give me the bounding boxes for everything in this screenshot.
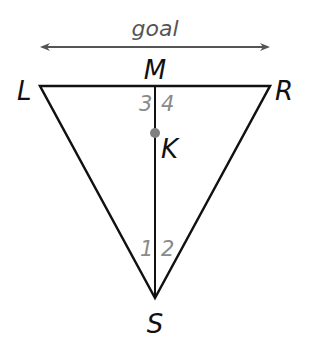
label-K: K [161,134,180,164]
label-L: L [17,76,32,106]
goal-label: goal [131,16,178,41]
triangle-diagram: goal L R M K S 3 4 1 2 [0,0,309,349]
label-M: M [144,55,166,85]
angle-label-1: 1 [140,237,153,261]
angle-label-3: 3 [139,92,152,116]
angle-label-2: 2 [161,237,174,261]
point-K-dot [150,128,160,138]
label-S: S [147,309,164,339]
angle-label-4: 4 [161,92,174,116]
label-R: R [275,76,293,106]
